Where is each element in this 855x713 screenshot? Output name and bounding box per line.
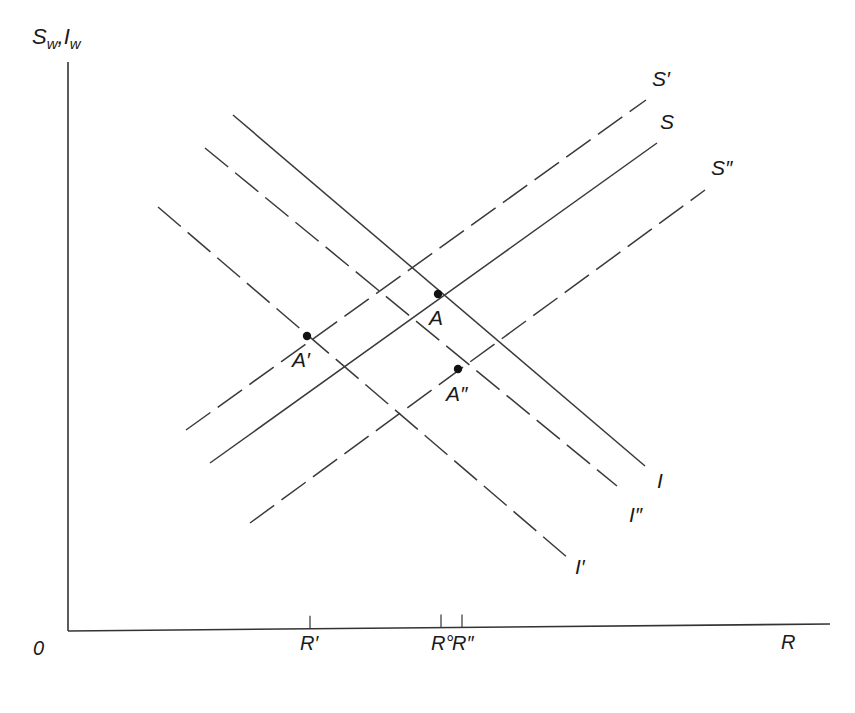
point-label: A″ bbox=[444, 382, 469, 405]
equilibrium-point bbox=[454, 365, 462, 373]
tick-label: R′ bbox=[300, 632, 319, 654]
point-label: A′ bbox=[290, 348, 311, 371]
equilibrium-point bbox=[303, 332, 311, 340]
equilibrium-point bbox=[434, 290, 442, 298]
curves: S′SS″II″I′ bbox=[158, 67, 734, 578]
x-axis-label: R bbox=[781, 631, 795, 653]
tick-label: R″ bbox=[452, 632, 474, 654]
point-label: A bbox=[427, 306, 443, 329]
equilibrium-points: AA′A″ bbox=[290, 290, 469, 405]
curve-label: S″ bbox=[711, 156, 734, 179]
origin-label: 0 bbox=[33, 637, 44, 659]
x-axis-ticks: R′R°R″ bbox=[300, 614, 474, 654]
tick-label: R° bbox=[431, 632, 453, 654]
curve-label: S′ bbox=[652, 67, 671, 90]
curve-line bbox=[158, 207, 568, 558]
curve-line bbox=[210, 143, 657, 463]
curve-label: I″ bbox=[629, 503, 644, 526]
curve-label: I bbox=[657, 469, 663, 492]
y-axis-label: Sw,Iw bbox=[32, 24, 82, 52]
curve-label: I′ bbox=[575, 555, 586, 578]
curve-line bbox=[186, 100, 646, 430]
x-axis bbox=[68, 624, 830, 631]
diagram-canvas: Sw,Iw 0 R R′R°R″ S′SS″II″I′ AA′A″ bbox=[0, 0, 855, 713]
curve-label: S bbox=[660, 110, 674, 133]
curve-line bbox=[205, 148, 617, 486]
